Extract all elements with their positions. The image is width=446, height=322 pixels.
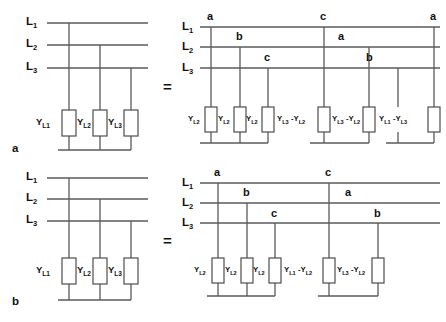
admittance-box-5 — [363, 107, 375, 132]
panel-b-left-element-label-YL1: YL1 — [36, 265, 50, 277]
panel-b-left-element-label-YL3: YL3 — [108, 265, 122, 277]
panel-b-node-letter-6: b — [374, 208, 381, 219]
panel-a-equals-sign: = — [163, 79, 172, 94]
panel-b-node-letter-5: a — [345, 187, 351, 198]
circuit-svg — [0, 0, 446, 322]
panel-a-label: a — [12, 143, 18, 155]
panel-b-right-element-label-4: YL1 -YL2 — [284, 266, 312, 276]
admittance-box-YL2 — [93, 258, 107, 284]
panel-a-node-letter-7: a — [430, 11, 436, 22]
panel-a-left-element-label-YL1: YL1 — [36, 117, 50, 129]
circuit-equivalence-figure: L1 L2 L3 YL1 YL2 YL3 = a L1 L2 L3 a b c … — [0, 0, 446, 322]
panel-a-node-letter-3: c — [264, 52, 270, 63]
panel-b-right-rail-label-L2: L2 — [182, 197, 193, 211]
panel-b-right-rail-label-L1: L1 — [182, 177, 193, 191]
panel-b-right-element-label-1: YL2 — [194, 266, 206, 276]
panel-a-left-rail-label-L2: L2 — [26, 38, 37, 52]
panel-b-left-rail-label-L1: L1 — [26, 171, 37, 185]
panel-a-left-element-label-YL3: YL3 — [108, 117, 122, 129]
panel-a-node-letter-6: b — [366, 52, 373, 63]
panel-b-node-letter-4: c — [325, 167, 331, 178]
admittance-box-YL1 — [62, 258, 76, 284]
panel-a-right-element-label-6: YL1 -YL3 — [379, 115, 407, 125]
admittance-box-3 — [262, 107, 274, 132]
panel-b-right-element-label-2: YL2 — [225, 266, 237, 276]
admittance-box-3 — [269, 258, 281, 283]
panel-b-right-element-label-5: YL3 -YL2 — [337, 266, 365, 276]
admittance-box-2 — [234, 107, 246, 132]
admittance-box-4 — [323, 258, 335, 283]
panel-a-node-letter-4: c — [320, 11, 326, 22]
panel-a-right-rail-label-L1: L1 — [182, 21, 193, 35]
admittance-box-YL3 — [124, 258, 138, 284]
admittance-box-YL1 — [62, 110, 76, 136]
panel-b-right-circuit — [200, 183, 440, 296]
panel-b-left-rail-label-L3: L3 — [26, 214, 37, 228]
admittance-box-4 — [318, 107, 330, 132]
panel-b-left-rail-label-L2: L2 — [26, 192, 37, 206]
panel-b-right-rail-label-L3: L3 — [182, 217, 193, 231]
panel-b-node-letter-1: a — [214, 167, 220, 178]
panel-b-node-letter-3: c — [271, 208, 277, 219]
panel-a-right-rail-label-L3: L3 — [182, 62, 193, 76]
admittance-box-6 — [428, 107, 440, 132]
panel-b-right-element-label-3: YL2 — [253, 266, 265, 276]
admittance-box-5 — [372, 258, 384, 283]
panel-a-right-element-label-2: YL2 — [218, 115, 230, 125]
panel-b-label: b — [12, 296, 19, 308]
panel-a-right-element-label-1: YL2 — [188, 115, 200, 125]
panel-b-left-elements — [62, 258, 138, 284]
panel-a-left-rail-label-L1: L1 — [26, 16, 37, 30]
panel-a-left-elements — [62, 110, 138, 136]
panel-b-left-element-label-YL2: YL2 — [77, 265, 91, 277]
panel-b-node-letter-2: b — [243, 187, 250, 198]
admittance-box-1 — [205, 107, 217, 132]
panel-a-right-element-label-5: YL3 -YL2 — [332, 115, 360, 125]
panel-a-right-element-label-3: YL2 — [246, 115, 258, 125]
admittance-box-YL3 — [124, 110, 138, 136]
admittance-box-1 — [212, 258, 224, 283]
panel-a-node-letter-5: a — [338, 31, 344, 42]
panel-a-left-element-label-YL2: YL2 — [77, 117, 91, 129]
panel-a-node-letter-2: b — [236, 31, 243, 42]
admittance-box-2 — [241, 258, 253, 283]
panel-a-left-rail-label-L3: L3 — [26, 61, 37, 75]
panel-a-node-letter-1: a — [207, 11, 213, 22]
admittance-box-YL2 — [93, 110, 107, 136]
panel-a-right-element-label-4: YL3 -YL2 — [277, 115, 305, 125]
panel-b-equals-sign: = — [163, 233, 172, 248]
panel-a-right-rail-label-L2: L2 — [182, 41, 193, 55]
